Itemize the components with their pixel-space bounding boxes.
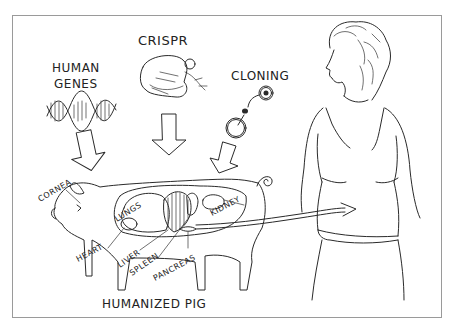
cloning-label: CLONING (231, 69, 289, 83)
humanized-pig-illustration: HUMAN GENES CRISPR CLONING (0, 0, 457, 332)
human-genes-label-line1: HUMAN (52, 61, 100, 75)
human-genes-group: HUMAN GENES (47, 61, 116, 174)
lungs-label: LUNGS (113, 200, 143, 223)
spleen-organ (187, 193, 198, 215)
cell-nucleus-transfer-icon (226, 86, 273, 138)
arrow-down-crispr-icon (152, 114, 186, 155)
human-genes-label-line2: GENES (54, 77, 98, 91)
dna-helix-icon (47, 91, 116, 131)
crispr-label: CRISPR (138, 33, 188, 48)
pancreas-organ (180, 227, 196, 232)
cloning-group: CLONING (210, 69, 289, 173)
crispr-enzyme-icon (140, 56, 207, 98)
heart-label: HEART (75, 242, 105, 264)
kidney-label: KIDNEY (209, 194, 242, 217)
cornea-label: CORNEA (37, 177, 74, 203)
arrow-down-genes-icon (66, 128, 108, 174)
arrow-down-cloning-icon (210, 142, 238, 173)
humanized-pig-label: HUMANIZED PIG (102, 297, 206, 311)
crispr-group: CRISPR (138, 33, 207, 155)
human-recipient-figure (301, 22, 420, 300)
